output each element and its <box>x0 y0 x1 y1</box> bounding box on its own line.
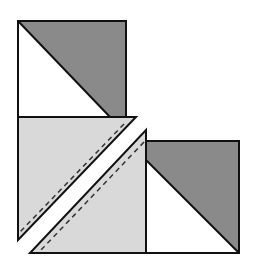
right-square <box>146 141 239 253</box>
top-square <box>18 21 126 117</box>
quilt-diagram <box>0 0 256 263</box>
